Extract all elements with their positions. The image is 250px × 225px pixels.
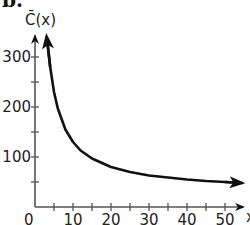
x-axis-label: x [246, 208, 250, 225]
x-tick-label: 30 [139, 211, 158, 225]
y-tick-label: 200 [2, 98, 31, 116]
curve-arrow-right [225, 182, 242, 183]
cost-curve [48, 42, 237, 183]
x-tick-label: 50 [215, 211, 234, 225]
y-tick-label: 300 [2, 48, 31, 66]
x-tick-label: 0 [24, 211, 34, 225]
x-tick-label: 10 [63, 211, 82, 225]
x-tick-label: 20 [101, 211, 120, 225]
curve-arrow-up [47, 36, 51, 67]
y-axis-label: C̄(x) [25, 11, 56, 29]
average-cost-chart [0, 0, 250, 225]
x-tick-label: 40 [177, 211, 196, 225]
y-tick-label: 100 [2, 148, 31, 166]
